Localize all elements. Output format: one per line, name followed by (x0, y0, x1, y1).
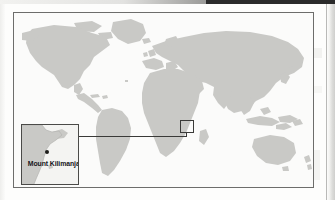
leader-line-vertical (186, 133, 187, 137)
summit-label: Mount Kilimanjaro (28, 159, 74, 168)
locator-rectangle (180, 120, 194, 133)
detail-inset-box: Mount Kilimanjaro (21, 124, 79, 185)
scan-top-dark-bar (206, 0, 335, 4)
leader-line-horizontal (79, 136, 186, 137)
scan-right-gutter-line (326, 4, 327, 200)
scan-top-edge-soft (0, 0, 206, 4)
figure-root: Mount Kilimanjaro (0, 0, 335, 200)
inset-coastline (22, 125, 78, 184)
summit-marker-dot (45, 150, 49, 154)
scan-left-edge (0, 4, 5, 200)
scan-right-gutter (326, 4, 335, 200)
